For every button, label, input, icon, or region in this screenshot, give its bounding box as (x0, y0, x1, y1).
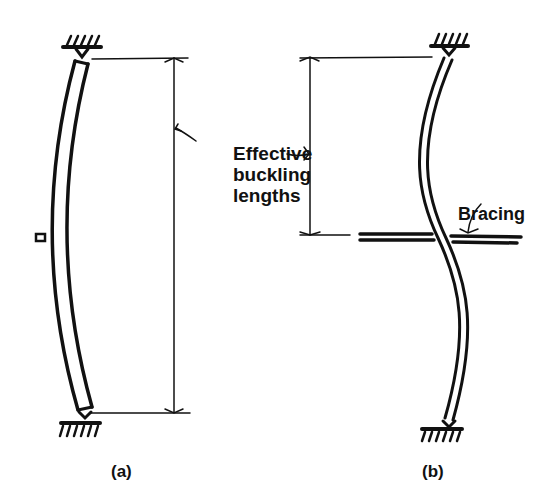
dimension-line-a (90, 58, 190, 413)
column-a (36, 61, 92, 410)
bottom-pin-support-a (60, 412, 100, 436)
caption-a: (a) (111, 462, 132, 482)
buckling-diagram (0, 0, 549, 503)
top-pin-support-a (63, 36, 101, 57)
dimension-line-b (300, 57, 432, 235)
label-line-3: lengths (233, 185, 312, 206)
bottom-pin-support-b (422, 421, 462, 441)
top-pin-support-b (431, 34, 468, 55)
label-line-1: Effective (233, 143, 312, 164)
label-line-2: buckling (233, 164, 312, 185)
effective-length-label: Effective buckling lengths (233, 143, 312, 206)
bracing-label: Bracing (458, 204, 525, 225)
caption-b: (b) (422, 462, 444, 482)
